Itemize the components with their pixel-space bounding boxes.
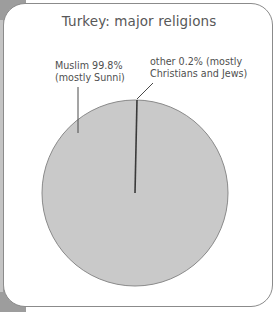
label-other-line1: other 0.2% (mostly [150, 56, 247, 68]
pie-chart-graphic [0, 0, 278, 312]
label-other-line2: Christians and Jews) [150, 68, 247, 80]
label-muslim-line1: Muslim 99.8% [55, 60, 125, 72]
label-other: other 0.2% (mostly Christians and Jews) [150, 56, 247, 79]
leader-line-other [137, 83, 153, 99]
label-muslim: Muslim 99.8% (mostly Sunni) [55, 60, 125, 83]
figure-container: Turkey: major religions Muslim 99.8% (mo… [0, 0, 278, 312]
chart-title: Turkey: major religions [0, 13, 278, 29]
label-muslim-line2: (mostly Sunni) [55, 72, 125, 84]
